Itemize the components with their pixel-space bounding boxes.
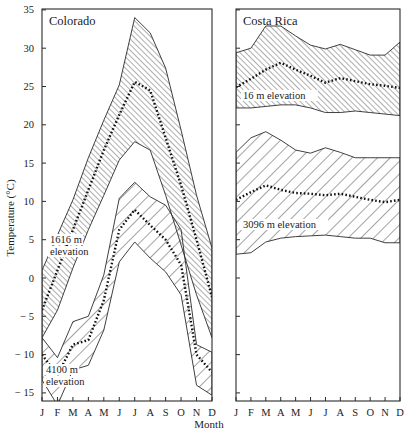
temperature-chart: 1616 melevation4100 melevationColorado35… [0,0,408,434]
x-tick-label: J [40,407,44,418]
x-tick-label: J [133,407,137,418]
panel-costa-rica: 16 m elevation3096 m elevationCosta Rica… [234,9,404,418]
x-tick-label: N [381,407,389,418]
series-label: 16 m elevation [243,90,306,101]
x-tick-label: O [366,407,374,418]
x-tick-label: J [234,407,238,418]
band-16-m-elevation [236,26,400,116]
x-tick-label: A [85,407,93,418]
y-tick-label: − 10 [15,349,34,360]
y-tick-label: 35 [24,4,35,15]
series-label: elevation [50,246,89,257]
x-tick-label: S [352,407,358,418]
x-tick-label: M [99,407,109,418]
series-label: 1616 m [50,234,82,245]
y-tick-label: 0 [29,273,34,284]
panel-colorado: 1616 melevation4100 melevationColorado35… [15,4,216,418]
x-tick-label: J [308,407,312,418]
x-tick-label: D [208,407,216,418]
x-tick-label: O [177,407,185,418]
y-tick-label: − 15 [15,387,34,398]
y-tick-label: 15 [24,158,35,169]
x-tick-label: D [396,407,404,418]
band-3096-m-elevation [236,132,400,255]
y-tick-label: 20 [24,119,35,130]
y-tick-label: − 5 [20,311,34,322]
y-tick-label: 10 [24,196,35,207]
y-tick-label: 30 [24,43,35,54]
x-tick-label: M [291,407,301,418]
x-tick-label: A [277,407,285,418]
x-tick-label: J [117,407,121,418]
x-tick-label: J [323,407,327,418]
series-label: elevation [46,376,85,387]
series-label: 3096 m elevation [243,219,317,230]
x-tick-label: M [68,407,78,418]
x-tick-label: A [337,407,345,418]
x-tick-label: A [146,407,154,418]
y-axis-label: Temperature (°C) [4,179,17,257]
x-tick-label: F [248,407,254,418]
series-label: 4100 m [46,364,78,375]
x-axis-label: Month [194,418,224,430]
chart-canvas: 1616 melevation4100 melevationColorado35… [0,0,408,434]
panel-title: Colorado [49,14,96,28]
y-tick-label: 5 [29,234,34,245]
x-tick-label: M [261,407,271,418]
x-tick-label: F [55,407,61,418]
panel-title: Costa Rica [243,14,298,28]
y-tick-label: 25 [24,81,35,92]
x-tick-label: N [193,407,201,418]
x-tick-label: S [163,407,169,418]
